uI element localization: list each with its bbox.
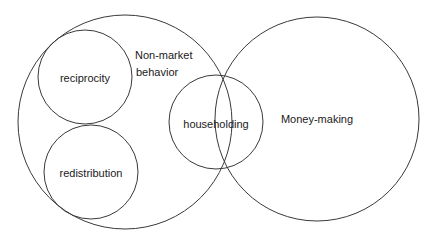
label-money-making: Money-making — [281, 113, 353, 125]
venn-diagram: Non-market behavior reciprocity redistri… — [0, 0, 433, 236]
label-non-market-line2: behavior — [136, 66, 179, 78]
label-non-market-line1: Non-market — [135, 49, 192, 61]
label-reciprocity: reciprocity — [60, 72, 111, 84]
label-householding: householding — [183, 118, 248, 130]
label-redistribution: redistribution — [60, 167, 123, 179]
